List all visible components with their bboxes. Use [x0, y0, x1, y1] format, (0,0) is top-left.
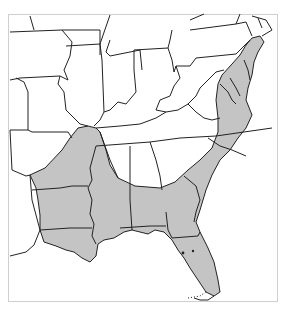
map-svg	[0, 0, 288, 309]
lake-okeechobee	[192, 250, 194, 252]
tampa-bay-mark	[182, 252, 185, 255]
range-map	[0, 0, 288, 309]
